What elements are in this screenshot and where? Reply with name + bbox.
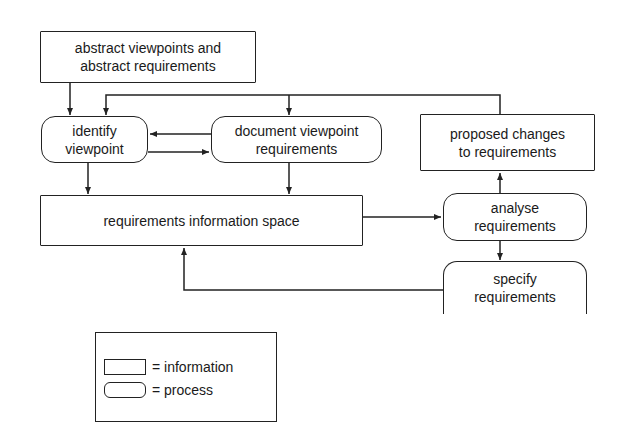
legend-item-process: = process: [104, 382, 213, 398]
node-label: proposed changes: [450, 125, 565, 143]
node-label: abstract requirements: [80, 57, 215, 75]
node-document-viewpoint-requirements: document viewpoint requirements: [211, 116, 382, 163]
node-identify-viewpoint: identify viewpoint: [41, 116, 148, 163]
information-shape-icon: [104, 359, 146, 375]
legend-label: = information: [152, 359, 233, 375]
legend: = information = process: [95, 332, 277, 422]
node-label: requirements: [474, 288, 556, 306]
legend-label: = process: [152, 382, 213, 398]
node-label: requirements: [256, 140, 338, 158]
node-specify-requirements: specify requirements: [443, 261, 587, 314]
node-abstract-viewpoints: abstract viewpoints and abstract require…: [40, 31, 256, 83]
node-requirements-information-space: requirements information space: [40, 195, 363, 246]
node-label: identify: [72, 122, 116, 140]
node-label: specify: [493, 270, 537, 288]
legend-item-information: = information: [104, 359, 233, 375]
process-shape-icon: [104, 382, 146, 398]
node-label: requirements: [474, 217, 556, 235]
node-label: document viewpoint: [235, 122, 359, 140]
node-proposed-changes: proposed changes to requirements: [420, 114, 595, 171]
node-label: abstract viewpoints and: [75, 39, 221, 57]
node-analyse-requirements: analyse requirements: [443, 193, 587, 241]
node-label: to requirements: [459, 143, 556, 161]
node-label: analyse: [491, 199, 539, 217]
node-label: requirements information space: [103, 212, 299, 230]
node-label: viewpoint: [65, 140, 123, 158]
